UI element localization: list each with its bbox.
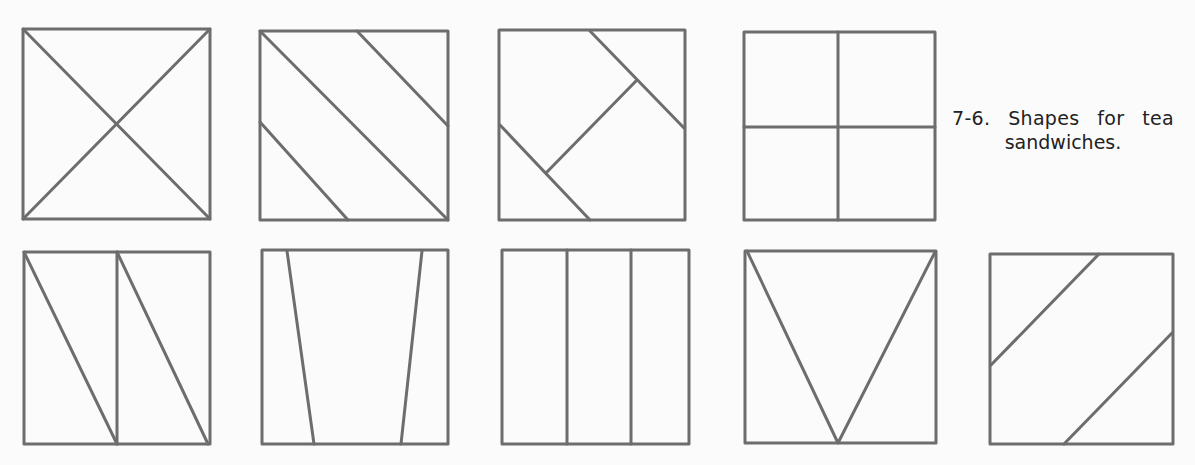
- shape-2-main-diagonal: [260, 31, 448, 220]
- shape-6-tapered-strips: [262, 250, 448, 444]
- shape-8-v-cut: [747, 251, 935, 443]
- figure-canvas: 7-6. Shapes for tea sandwiches.: [0, 0, 1195, 465]
- caption-line-1: 7-6. Shapes for tea: [952, 106, 1174, 130]
- shape-2-diagonal-strips: [260, 31, 448, 220]
- shape-5-left-diagonal: [24, 252, 117, 444]
- shape-1-four-triangles: [23, 29, 210, 219]
- figure-caption: 7-6. Shapes for tea sandwiches.: [952, 106, 1174, 154]
- shape-9-outline: [990, 254, 1173, 444]
- shape-3-connector: [546, 81, 636, 173]
- shape-6-right-cut: [401, 251, 422, 444]
- shape-5-right-diagonal: [117, 252, 208, 444]
- caption-line-2: sandwiches.: [952, 130, 1174, 154]
- shape-2-lower-cut: [260, 122, 348, 220]
- shape-8-v-triangles: [745, 251, 936, 443]
- shape-8-outline: [745, 251, 936, 443]
- shape-2-upper-cut: [357, 31, 448, 126]
- shape-7-three-fingers: [502, 250, 689, 444]
- shape-5-halved-diagonals: [24, 252, 210, 444]
- shape-4-quarters: [744, 32, 935, 220]
- shape-3-diagonal-connector: [499, 30, 685, 220]
- shape-9-upper-cut: [991, 254, 1099, 365]
- shape-9-parallel-diagonals: [990, 254, 1173, 444]
- shape-9-lower-cut: [1064, 333, 1172, 444]
- sandwich-shapes-diagram: [0, 0, 1195, 465]
- shape-6-left-cut: [287, 251, 314, 444]
- shape-7-outline: [502, 250, 689, 444]
